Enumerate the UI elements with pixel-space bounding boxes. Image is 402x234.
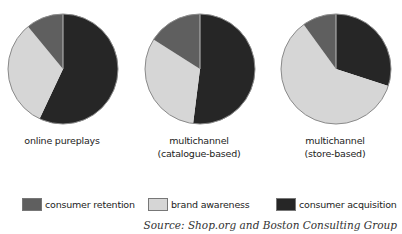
legend-label: consumer acquisition bbox=[299, 199, 397, 210]
pie-label-line: multichannel bbox=[131, 134, 267, 147]
pie-label-line: online pureplays bbox=[0, 134, 130, 147]
pie-label-multichannel-catalogue: multichannel (catalogue-based) bbox=[131, 134, 267, 160]
legend-item-consumer-retention: consumer retention bbox=[22, 197, 135, 211]
pie-slice-consumer-acquisition bbox=[193, 14, 255, 124]
pie-label-line: (catalogue-based) bbox=[131, 147, 267, 160]
pie-label-line: multichannel bbox=[267, 134, 402, 147]
legend-swatch-consumer-retention bbox=[22, 198, 42, 211]
legend-item-consumer-acquisition: consumer acquisition bbox=[276, 197, 397, 211]
legend-swatch-brand-awareness bbox=[148, 198, 168, 211]
legend-label: brand awareness bbox=[171, 199, 250, 210]
pie-chart-multichannel-catalogue bbox=[142, 11, 258, 127]
pie-label-multichannel-store: multichannel (store-based) bbox=[267, 134, 402, 160]
legend-swatch-consumer-acquisition bbox=[276, 198, 296, 211]
pie-chart-online-pureplays bbox=[5, 11, 121, 127]
legend-label: consumer retention bbox=[45, 199, 135, 210]
pie-label-online-pureplays: online pureplays bbox=[0, 134, 130, 147]
source-citation: Source: Shop.org and Boston Consulting G… bbox=[144, 219, 397, 231]
pie-chart-multichannel-store bbox=[278, 11, 394, 127]
pie-label-line: (store-based) bbox=[267, 147, 402, 160]
legend-item-brand-awareness: brand awareness bbox=[148, 197, 250, 211]
